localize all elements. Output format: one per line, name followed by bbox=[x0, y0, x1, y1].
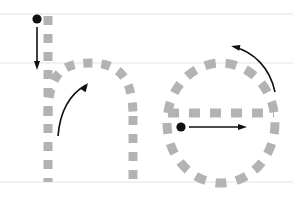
letter-e-start-dot bbox=[176, 122, 185, 131]
letter-e-stroke2-arrowhead bbox=[231, 45, 240, 51]
handwriting-worksheet bbox=[0, 0, 293, 198]
letter-n-stroke1-arrowhead bbox=[34, 61, 40, 70]
worksheet-canvas bbox=[0, 0, 293, 198]
letter-e-stroke2-arrow-shaft bbox=[234, 47, 275, 92]
letter-n-group bbox=[48, 16, 133, 182]
letter-n-stroke2-arrow-shaft bbox=[58, 85, 86, 136]
letter-n-start-dot bbox=[32, 14, 41, 23]
letter-e-stroke1-arrowhead bbox=[238, 124, 247, 130]
letter-n-arch bbox=[48, 63, 133, 116]
